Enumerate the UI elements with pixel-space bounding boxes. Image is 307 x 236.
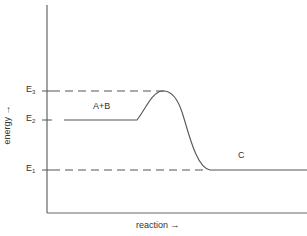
energy-diagram-canvas <box>0 0 307 236</box>
products-label: C <box>238 151 245 160</box>
reactants-label: A+B <box>93 102 110 111</box>
x-axis-label: reaction → <box>136 221 180 230</box>
label-e1: E1 <box>26 164 35 173</box>
y-axis-label: energy → <box>2 100 12 150</box>
label-e3: E3 <box>26 85 35 94</box>
label-e2: E2 <box>26 114 35 123</box>
